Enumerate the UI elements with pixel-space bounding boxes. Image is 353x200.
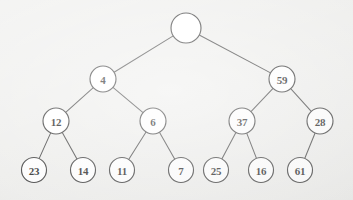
tree-edge [199, 35, 270, 73]
binary-tree-figure: 45912637282314117251661 [0, 0, 353, 200]
tree-node-61[interactable]: 61 [288, 158, 313, 183]
node-label: 7 [178, 165, 184, 177]
node-label: 23 [29, 165, 40, 177]
node-label: 6 [150, 116, 156, 128]
tree-diagram-canvas: 45912637282314117251661 [0, 0, 353, 200]
node-layer: 45912637282314117251661 [22, 13, 334, 183]
tree-edge [247, 133, 257, 158]
tree-edge [251, 88, 273, 111]
tree-node-4[interactable]: 4 [90, 66, 116, 92]
tree-edge [113, 87, 143, 112]
node-label: 14 [78, 165, 89, 177]
node-label: 25 [211, 165, 222, 177]
tree-node-37[interactable]: 37 [229, 108, 255, 134]
node-label: 12 [51, 116, 62, 128]
tree-node-root-empty[interactable] [171, 13, 201, 43]
tree-node-11[interactable]: 11 [110, 158, 135, 183]
node-label: 16 [256, 165, 267, 177]
node-label: 61 [295, 165, 306, 177]
tree-node-6[interactable]: 6 [140, 108, 166, 134]
tree-node-23[interactable]: 23 [22, 158, 47, 183]
tree-node-7[interactable]: 7 [169, 158, 194, 183]
node-label: 4 [100, 74, 106, 86]
tree-node-25[interactable]: 25 [204, 158, 229, 183]
node-label: 11 [117, 165, 127, 177]
node-label: 37 [237, 116, 248, 128]
tree-edge [222, 132, 236, 158]
node-circle [171, 13, 201, 43]
tree-node-16[interactable]: 16 [249, 158, 274, 183]
tree-edge [66, 88, 94, 113]
tree-node-28[interactable]: 28 [307, 108, 333, 134]
tree-edge [291, 89, 312, 112]
node-label: 28 [315, 116, 326, 128]
tree-node-14[interactable]: 14 [71, 158, 96, 183]
tree-edge [129, 132, 146, 159]
tree-node-12[interactable]: 12 [43, 108, 69, 134]
tree-edge [114, 36, 173, 72]
tree-edge [159, 132, 174, 159]
tree-edge [305, 133, 315, 158]
edge-layer [39, 35, 315, 159]
tree-edge [39, 133, 51, 159]
tree-node-59[interactable]: 59 [269, 66, 295, 92]
node-label: 59 [277, 74, 288, 86]
tree-edge [62, 132, 77, 159]
